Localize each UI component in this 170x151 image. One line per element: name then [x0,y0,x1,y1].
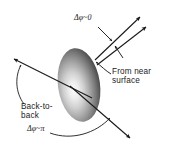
angle-gap-indicator-arrow [98,27,112,41]
label-near-side-angle: Δφ~0 [74,14,91,23]
label-back-to-back: Back-to- back [21,103,53,121]
back-to-back-curly-bracket [17,65,24,104]
label-near-side-angle-text: Δφ~0 [74,13,91,22]
near-side-jet-arrow-upper [95,17,140,60]
leader-line-from-near-surface [96,62,111,74]
label-back-to-back-line2: back [21,112,53,121]
physics-diagram-figure: Δφ~0 From near surface Back-to- back Δφ~… [0,0,170,151]
label-back-to-back-angle: Δφ~π [27,125,44,134]
label-from-near-surface-line2: surface [112,77,151,86]
label-back-to-back-angle-text: Δφ~π [27,124,44,133]
label-from-near-surface: From near surface [112,68,151,86]
